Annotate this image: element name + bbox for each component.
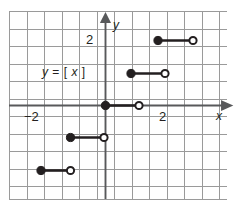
open-endpoint-0 [135, 102, 142, 109]
closed-endpoint-0 [101, 101, 109, 109]
closed-endpoint-2 [154, 36, 162, 44]
open-endpoint-1 [161, 70, 168, 77]
closed-endpoint-neg3 [37, 166, 45, 174]
open-endpoint-2 [189, 37, 196, 44]
y-axis-tick-label-2: 2 [86, 33, 93, 46]
x-axis-tick-label-negative-2: −2 [24, 110, 39, 123]
y-axis-arrowhead [102, 14, 110, 22]
step-function-graph-figure: y x 2 2 −2 y = [ x ] [0, 0, 236, 211]
closed-endpoint-neg2 [66, 133, 74, 141]
open-endpoint-neg2 [100, 134, 107, 141]
x-axis-tick-label-2: 2 [159, 110, 166, 123]
equation-label-x: x [71, 65, 78, 79]
x-axis-arrowhead [222, 102, 231, 110]
closed-endpoint-1 [127, 69, 135, 77]
x-axis-label: x [216, 110, 222, 122]
y-axis-label: y [113, 19, 119, 31]
equation-label-equals: = [52, 65, 60, 79]
equation-label-open: [ [64, 65, 68, 79]
equation-label-close: ] [82, 65, 86, 79]
equation-label-y: y [42, 65, 49, 79]
open-endpoint-neg3 [67, 167, 74, 174]
equation-label: y = [ x ] [42, 66, 86, 78]
